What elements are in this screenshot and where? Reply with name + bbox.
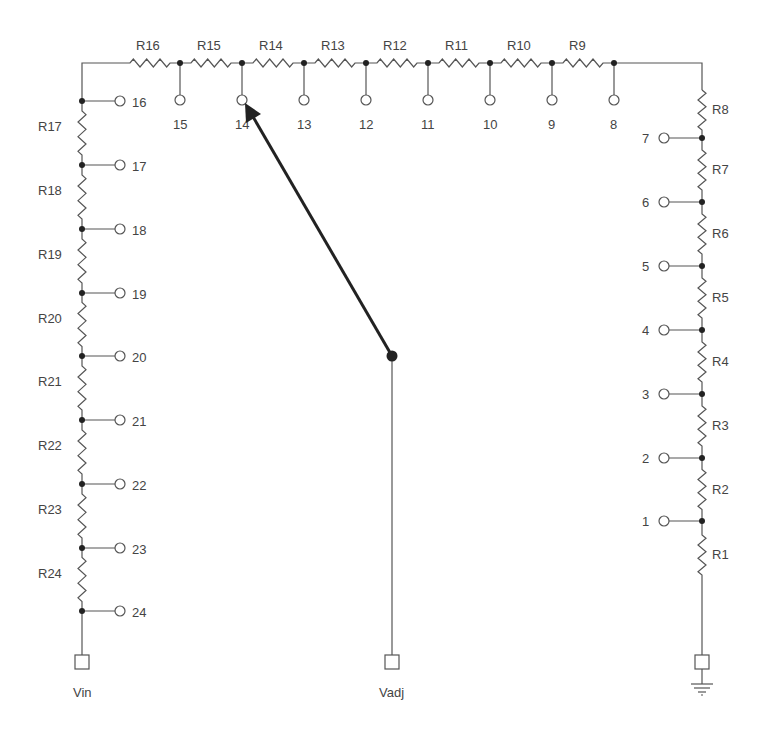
tap-terminal-11[interactable]	[423, 95, 433, 105]
tap-label-20: 20	[132, 350, 146, 365]
labels: R16R15R14R13R12R11R10R915141312111098R17…	[38, 38, 729, 620]
junction-node	[79, 545, 85, 551]
resistor-r13	[304, 59, 366, 67]
junction-node	[487, 60, 493, 66]
resistor-r11	[428, 59, 490, 67]
junction-node	[699, 455, 705, 461]
junction-node	[79, 162, 85, 168]
resistor-r8	[698, 90, 706, 138]
tap-terminal-6[interactable]	[659, 197, 669, 207]
junction-node	[699, 263, 705, 269]
resistor-label-r11: R11	[445, 38, 468, 53]
top-right-corner-wire	[614, 63, 702, 90]
resistor-r16	[120, 59, 180, 67]
resistor-r6	[698, 202, 706, 266]
tap-label-21: 21	[132, 414, 146, 429]
ground-terminal-box[interactable]	[695, 655, 709, 669]
resistor-r7	[698, 138, 706, 202]
resistor-r24	[78, 548, 86, 611]
tap-terminal-23[interactable]	[115, 543, 125, 553]
tap-terminal-22[interactable]	[115, 479, 125, 489]
junction-node	[177, 60, 183, 66]
resistor-label-r12: R12	[383, 38, 407, 53]
tap-terminal-24[interactable]	[115, 606, 125, 616]
tap-terminal-20[interactable]	[115, 351, 125, 361]
tap-terminal-7[interactable]	[659, 133, 669, 143]
resistor-r19	[78, 229, 86, 293]
tap-terminal-2[interactable]	[659, 453, 669, 463]
tap-label-16: 16	[132, 95, 146, 110]
resistor-r21	[78, 356, 86, 420]
wiper-line	[252, 115, 392, 356]
tap-terminal-21[interactable]	[115, 415, 125, 425]
tap-terminal-10[interactable]	[485, 95, 495, 105]
tap-label-22: 22	[132, 478, 146, 493]
resistor-label-r16: R16	[136, 38, 160, 53]
resistor-label-r10: R10	[507, 38, 531, 53]
junction-node	[699, 199, 705, 205]
resistor-label-r9: R9	[569, 38, 586, 53]
tap-label-23: 23	[132, 542, 146, 557]
junction-node	[301, 60, 307, 66]
resistor-label-r2: R2	[712, 482, 729, 497]
tap-label-9: 9	[548, 117, 555, 132]
tap-terminal-13[interactable]	[299, 95, 309, 105]
junction-node	[79, 290, 85, 296]
tap-label-4: 4	[642, 323, 649, 338]
wiper-arrowhead-icon	[245, 103, 261, 123]
tap-terminal-15[interactable]	[175, 95, 185, 105]
resistor-label-r23: R23	[38, 502, 62, 517]
resistor-label-r13: R13	[321, 38, 345, 53]
tap-label-11: 11	[421, 117, 435, 132]
tap-label-3: 3	[642, 387, 649, 402]
resistor-r9	[552, 59, 614, 67]
tap-label-13: 13	[297, 117, 311, 132]
vadj-label: Vadj	[379, 685, 404, 700]
resistor-r12	[366, 59, 428, 67]
resistor-label-r17: R17	[38, 119, 62, 134]
resistor-r14	[242, 59, 304, 67]
tap-terminal-9[interactable]	[547, 95, 557, 105]
tap-terminal-16[interactable]	[115, 96, 125, 106]
junction-node	[611, 60, 617, 66]
resistor-label-r15: R15	[197, 38, 221, 53]
tap-terminal-18[interactable]	[115, 224, 125, 234]
tap-terminal-19[interactable]	[115, 288, 125, 298]
tap-terminal-12[interactable]	[361, 95, 371, 105]
resistor-r15	[180, 59, 242, 67]
tap-terminal-5[interactable]	[659, 261, 669, 271]
junction-node	[699, 391, 705, 397]
tap-terminal-4[interactable]	[659, 325, 669, 335]
resistor-r10	[490, 59, 552, 67]
resistor-r3	[698, 394, 706, 458]
tap-terminal-1[interactable]	[659, 516, 669, 526]
top-left-corner-wire	[82, 63, 120, 101]
wiper-arm[interactable]	[245, 103, 398, 655]
tap-label-6: 6	[642, 195, 649, 210]
resistor-label-r19: R19	[38, 247, 62, 262]
tap-terminal-8[interactable]	[609, 95, 619, 105]
vadj-terminal-box[interactable]	[385, 655, 399, 669]
resistor-label-r21: R21	[38, 374, 62, 389]
tap-terminal-3[interactable]	[659, 389, 669, 399]
resistor-label-r20: R20	[38, 311, 62, 326]
resistor-r5	[698, 266, 706, 330]
resistor-label-r1: R1	[712, 547, 729, 562]
junction-node	[79, 608, 85, 614]
junction-node	[699, 135, 705, 141]
vin-terminal-box[interactable]	[75, 655, 89, 669]
wiper-pivot[interactable]	[387, 351, 398, 362]
junction-node	[79, 417, 85, 423]
tap-terminal-17[interactable]	[115, 160, 125, 170]
junction-node	[79, 481, 85, 487]
resistor-label-r7: R7	[712, 162, 729, 177]
tap-label-15: 15	[173, 117, 187, 132]
junction-node	[79, 226, 85, 232]
resistor-r1	[698, 521, 706, 590]
junction-node	[699, 518, 705, 524]
tap-label-5: 5	[642, 259, 649, 274]
resistor-label-r6: R6	[712, 226, 729, 241]
tap-label-10: 10	[483, 117, 497, 132]
junction-node	[79, 98, 85, 104]
tap-label-1: 1	[642, 514, 649, 529]
